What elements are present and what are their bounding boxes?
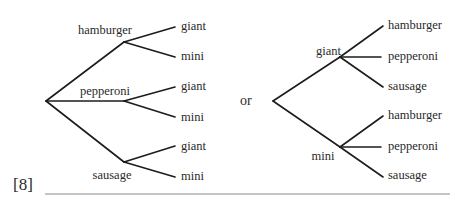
leaf-sausage-giant: giant — [181, 139, 207, 153]
left-tree: hamburger pepperoni sausage giant mini g… — [46, 19, 207, 183]
edge-giant-sausage — [340, 57, 383, 87]
edge-root-mini — [273, 101, 340, 147]
edge-root-giant — [273, 57, 340, 101]
edge-sausage-giant — [124, 146, 175, 162]
edge-giant-hamburger — [340, 26, 383, 57]
edge-hamburger-mini — [124, 42, 175, 57]
leaf-sausage-mini: mini — [181, 169, 204, 183]
leaf-giant-sausage: sausage — [388, 79, 427, 93]
leaf-hamburger-giant: giant — [181, 19, 207, 33]
right-tree: giant mini hamburger pepperoni sausage h… — [273, 18, 443, 182]
tree-diagrams: hamburger pepperoni sausage giant mini g… — [0, 0, 455, 204]
leaf-mini-sausage: sausage — [388, 168, 427, 182]
edge-root-sausage — [46, 101, 124, 162]
or-connector: or — [240, 93, 252, 108]
leaf-pepperoni-mini: mini — [181, 110, 204, 124]
node-hamburger: hamburger — [78, 23, 133, 37]
edge-pepperoni-giant — [124, 87, 175, 101]
leaf-hamburger-mini: mini — [181, 49, 204, 63]
leaf-giant-pepperoni: pepperoni — [388, 49, 439, 63]
node-giant: giant — [316, 44, 342, 58]
leaf-mini-pepperoni: pepperoni — [388, 139, 439, 153]
node-mini: mini — [312, 149, 335, 163]
leaf-pepperoni-giant: giant — [181, 79, 207, 93]
edge-mini-hamburger — [340, 116, 383, 147]
edge-pepperoni-mini — [124, 101, 175, 117]
edge-mini-sausage — [340, 147, 383, 177]
leaf-giant-hamburger: hamburger — [388, 18, 443, 32]
edge-sausage-mini — [124, 162, 175, 177]
node-pepperoni: pepperoni — [80, 84, 131, 98]
node-sausage: sausage — [93, 168, 132, 182]
leaf-mini-hamburger: hamburger — [388, 108, 443, 122]
marks-label: [8] — [13, 175, 33, 194]
